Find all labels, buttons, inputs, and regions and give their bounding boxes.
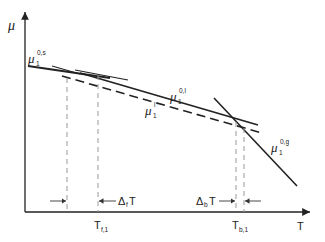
label-gas: μ 1 0,g bbox=[270, 138, 289, 156]
diagram-canvas: μ T μ 1 0,s μ 1 0,l μ 1 l μ 1 0,g T f,1 bbox=[0, 0, 325, 242]
liquid-mix-curve bbox=[62, 76, 262, 133]
svg-text:T: T bbox=[129, 195, 136, 207]
label-delta-f: Δ f T bbox=[118, 195, 136, 208]
svg-text:Δ: Δ bbox=[118, 195, 126, 207]
svg-text:b,1: b,1 bbox=[239, 226, 248, 233]
svg-text:f: f bbox=[126, 201, 128, 208]
svg-text:1: 1 bbox=[153, 112, 157, 119]
label-liquid-mix: μ 1 l bbox=[144, 101, 157, 119]
label-solid: μ 1 0,s bbox=[27, 49, 46, 67]
label-delta-b: Δ b T bbox=[196, 195, 216, 208]
svg-text:μ: μ bbox=[144, 103, 152, 118]
svg-text:μ: μ bbox=[169, 89, 177, 104]
svg-text:0,g: 0,g bbox=[280, 138, 289, 146]
tick-tf: T f,1 bbox=[94, 219, 109, 233]
x-axis-label: T bbox=[297, 220, 304, 232]
svg-text:T: T bbox=[94, 219, 101, 231]
svg-text:0,s: 0,s bbox=[37, 49, 46, 56]
svg-text:1: 1 bbox=[279, 149, 283, 156]
svg-text:l: l bbox=[154, 101, 156, 108]
svg-text:Δ: Δ bbox=[196, 195, 204, 207]
phase-diagram: μ T μ 1 0,s μ 1 0,l μ 1 l μ 1 0,g T f,1 bbox=[0, 0, 325, 242]
svg-text:μ: μ bbox=[270, 140, 278, 155]
y-axis-label: μ bbox=[7, 18, 15, 33]
svg-text:1: 1 bbox=[36, 60, 40, 67]
label-liquid-pure: μ 1 0,l bbox=[169, 87, 186, 105]
svg-text:T: T bbox=[232, 219, 239, 231]
svg-text:b: b bbox=[204, 201, 208, 208]
svg-text:f,1: f,1 bbox=[101, 226, 109, 233]
svg-text:0,l: 0,l bbox=[179, 87, 186, 94]
svg-text:T: T bbox=[209, 195, 216, 207]
svg-text:μ: μ bbox=[27, 51, 35, 66]
svg-text:1: 1 bbox=[178, 98, 182, 105]
tick-tb: T b,1 bbox=[232, 219, 248, 233]
